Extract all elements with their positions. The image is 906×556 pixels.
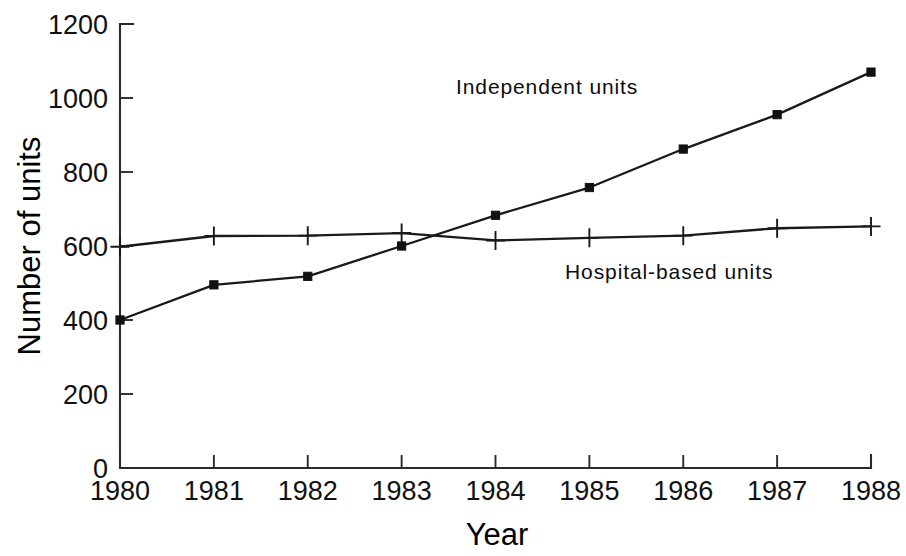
- data-point-marker: [862, 217, 881, 236]
- data-point-marker: [674, 226, 693, 245]
- x-axis-tick-labels: 198019811982198319841985198619871988: [90, 476, 901, 506]
- x-tick-label: 1987: [747, 476, 807, 506]
- data-point-marker: [773, 111, 781, 119]
- series-annotations: Independent unitsHospital-based units: [456, 75, 773, 283]
- x-tick-label: 1985: [559, 476, 619, 506]
- x-axis-title: Year: [466, 517, 529, 552]
- y-tick-label: 600: [63, 232, 108, 262]
- y-axis-title: Number of units: [12, 137, 47, 356]
- y-tick-label: 200: [63, 380, 108, 410]
- data-point-marker: [204, 227, 223, 246]
- series-1: [116, 68, 875, 324]
- chart-figure: 020040060080010001200 198019811982198319…: [0, 0, 906, 556]
- y-tick-label: 400: [63, 306, 108, 336]
- x-tick-label: 1981: [184, 476, 244, 506]
- series-label-1: Independent units: [456, 75, 638, 98]
- data-point-marker: [392, 224, 411, 243]
- data-point-marker: [111, 237, 130, 256]
- data-point-marker: [210, 281, 218, 289]
- x-tick-label: 1980: [90, 476, 150, 506]
- data-point-marker: [585, 183, 593, 191]
- data-point-marker: [486, 231, 505, 250]
- data-point-marker: [491, 211, 499, 219]
- x-tick-label: 1986: [653, 476, 713, 506]
- data-point-marker: [304, 272, 312, 280]
- data-point-marker: [768, 219, 787, 238]
- x-tick-label: 1983: [372, 476, 432, 506]
- x-tick-label: 1984: [465, 476, 525, 506]
- data-point-marker: [580, 228, 599, 247]
- x-tick-label: 1982: [278, 476, 338, 506]
- y-tick-label: 1000: [48, 84, 108, 114]
- y-axis-tick-labels: 020040060080010001200: [48, 10, 108, 484]
- data-point-marker: [116, 316, 124, 324]
- line-chart-canvas: 020040060080010001200 198019811982198319…: [0, 0, 906, 556]
- series-2: [111, 217, 881, 256]
- x-axis-tick-marks: [120, 455, 871, 468]
- series-label-2: Hospital-based units: [565, 260, 773, 283]
- data-point-marker: [398, 242, 406, 250]
- data-point-marker: [867, 68, 875, 76]
- data-point-marker: [679, 145, 687, 153]
- data-point-marker: [298, 226, 317, 245]
- data-series-group: [111, 68, 881, 324]
- x-tick-label: 1988: [841, 476, 901, 506]
- y-tick-label: 1200: [48, 10, 108, 40]
- y-tick-label: 800: [63, 158, 108, 188]
